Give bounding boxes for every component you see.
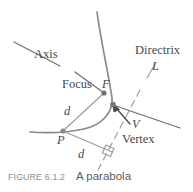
- focus-point-label: F: [102, 78, 110, 91]
- point-p-label: P: [57, 134, 65, 147]
- figure-caption-number: FIGURE 6.1.2: [8, 171, 65, 182]
- vertex-point: [110, 102, 116, 108]
- figure-container: Axis Focus F Directrix L V Vertex P d d …: [0, 0, 193, 192]
- parabola-curve: [30, 12, 112, 133]
- vertex-label: Vertex: [122, 133, 155, 146]
- axis-label: Axis: [34, 48, 58, 61]
- directrix-line-label: L: [152, 60, 159, 73]
- parabola-diagram: [0, 0, 193, 192]
- vertex-point-label: V: [132, 118, 140, 131]
- focus-label: Focus: [62, 78, 92, 91]
- figure-caption-title: A parabola: [76, 170, 131, 182]
- figure-caption: FIGURE 6.1.2 A parabola: [8, 170, 131, 182]
- directrix-label: Directrix: [135, 44, 180, 57]
- distance-d-directrix-label: d: [78, 148, 84, 161]
- distance-d-focus-label: d: [64, 105, 70, 118]
- focus-point: [101, 90, 106, 95]
